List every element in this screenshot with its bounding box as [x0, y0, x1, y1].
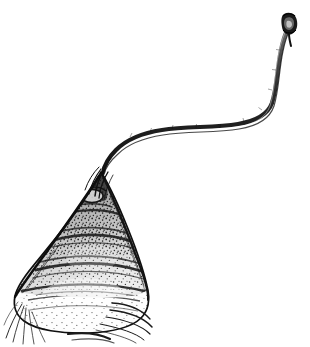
body-highlight-upper: [66, 245, 118, 271]
filament-edge-highlight: [104, 28, 287, 175]
specimen-illustration: [0, 0, 310, 347]
specimen-body: [0, 160, 310, 340]
body-stipple-upper: [0, 165, 310, 260]
filament-underline: [103, 27, 291, 176]
filament-main-stroke: [103, 26, 289, 173]
caudal-filament: [85, 26, 291, 200]
figure-canvas: [0, 0, 310, 347]
